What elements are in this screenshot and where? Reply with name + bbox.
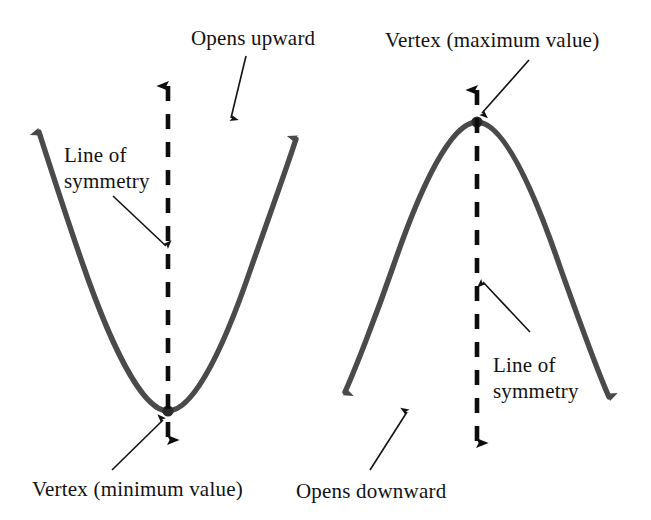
- opens-upward-pointer-line: [231, 56, 246, 118]
- label-line-of-symmetry-right: Line of symmetry: [493, 352, 579, 404]
- downward-parabola-left-arm: [345, 122, 477, 392]
- label-vertex-maximum: Vertex (maximum value): [385, 28, 599, 53]
- opens-downward-pointer-line: [370, 412, 407, 470]
- label-opens-downward: Opens downward: [296, 479, 446, 504]
- diagram-canvas: [0, 0, 651, 520]
- line-of-symmetry-right-pointer-line: [483, 282, 530, 332]
- vertex-minimum-pointer-line: [112, 420, 163, 470]
- upward-parabola-right-arm: [168, 139, 296, 411]
- label-vertex-minimum: Vertex (minimum value): [32, 477, 243, 502]
- parabola-diagram-figure: Opens upward Line of symmetry Vertex (mi…: [0, 0, 651, 520]
- label-line-of-symmetry-left: Line of symmetry: [64, 142, 150, 194]
- line-of-symmetry-left-pointer-line: [113, 196, 166, 246]
- label-opens-upward: Opens upward: [191, 26, 315, 51]
- upward-parabola-group: [39, 86, 296, 440]
- vertex-maximum-pointer-line: [482, 60, 529, 113]
